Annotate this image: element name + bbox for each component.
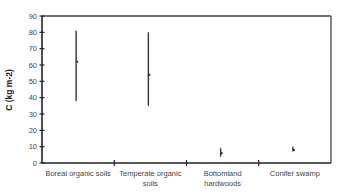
- mean-marker: [76, 61, 78, 63]
- x-category-label: Bottomlandhardwoods: [204, 169, 242, 188]
- x-axis: Boreal organic soilsTemperate organicsoi…: [42, 160, 331, 188]
- y-tick-label: 90: [29, 12, 37, 21]
- chart: 0102030405060708090 Boreal organic soils…: [0, 0, 347, 194]
- mean-marker: [221, 152, 223, 154]
- x-category-label: Boreal organic soils: [45, 169, 111, 178]
- x-category-label: Temperate organicsoils: [119, 169, 181, 188]
- y-tick-label: 60: [29, 61, 37, 70]
- y-tick-label: 20: [29, 126, 37, 135]
- y-tick-label: 0: [33, 159, 37, 168]
- mean-marker: [148, 74, 150, 76]
- y-tick-label: 70: [29, 44, 37, 53]
- y-tick-label: 30: [29, 110, 37, 119]
- y-axis: 0102030405060708090: [29, 12, 45, 168]
- data-series: [76, 31, 295, 157]
- y-tick-label: 10: [29, 142, 37, 151]
- x-category-label: Conifer swamp: [270, 169, 320, 178]
- y-axis-label: C (kg m-2): [4, 69, 14, 111]
- y-tick-label: 40: [29, 93, 37, 102]
- y-tick-label: 50: [29, 77, 37, 86]
- y-tick-label: 80: [29, 28, 37, 37]
- mean-marker: [293, 149, 295, 151]
- plot-frame: [42, 16, 331, 163]
